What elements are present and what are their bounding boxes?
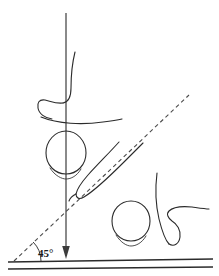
lower-ball-circle	[112, 201, 150, 241]
angle-label: 45°	[38, 247, 53, 259]
pointer-tail-curve	[69, 194, 76, 201]
ground-line-lower	[8, 267, 213, 269]
right-long-curve	[156, 173, 169, 244]
upper-sweep-curve	[41, 117, 122, 124]
vertical-axis-group	[62, 13, 70, 259]
arrow-down-icon	[62, 246, 70, 259]
right-hook-curve	[168, 207, 209, 246]
diagonal-dashed-line	[14, 95, 189, 261]
upper-vertical-curve	[63, 52, 75, 103]
upper-hook-curve	[38, 100, 63, 119]
sketch-diagram: 45°	[0, 0, 219, 276]
upper-sketch-group	[38, 52, 122, 124]
right-sketch-group	[156, 173, 209, 245]
center-pointer-group	[69, 142, 143, 201]
diagram-canvas: 45°	[0, 0, 219, 276]
lower-ball-group	[112, 201, 150, 246]
ground-group	[8, 259, 213, 269]
ground-line-upper	[8, 259, 213, 262]
